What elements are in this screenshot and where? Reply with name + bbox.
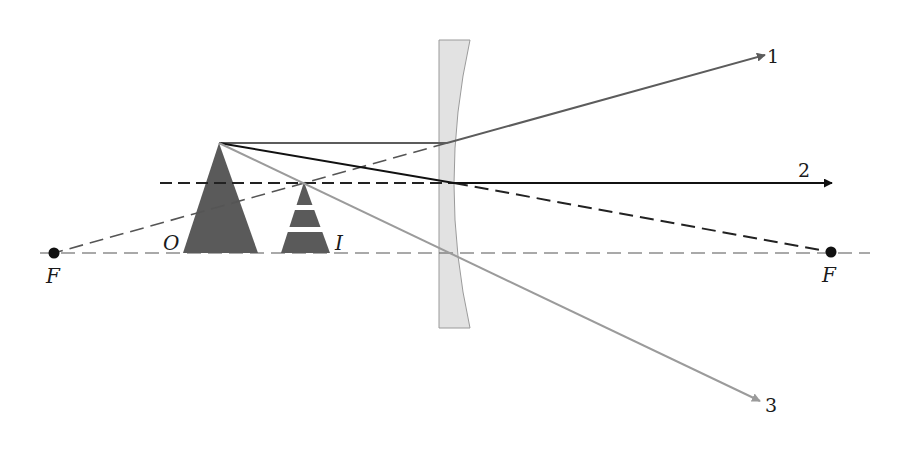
focal-point-left bbox=[49, 248, 60, 259]
object-arrow bbox=[183, 143, 258, 253]
ray2-label: 2 bbox=[798, 159, 810, 181]
focal-label-left: F bbox=[45, 264, 61, 288]
ray-2 bbox=[219, 143, 832, 183]
image-label: I bbox=[334, 231, 344, 255]
ray3-label: 3 bbox=[765, 394, 777, 416]
object-label: O bbox=[163, 231, 179, 255]
focal-point-right bbox=[826, 247, 837, 258]
focal-label-right: F bbox=[821, 263, 837, 287]
ray-3 bbox=[219, 143, 760, 401]
virtual-image bbox=[270, 182, 340, 253]
ray-diagram: F F O I 1 2 3 bbox=[0, 0, 915, 455]
ray1-label: 1 bbox=[767, 45, 779, 67]
ray2-extension-to-focus bbox=[454, 183, 831, 252]
ray-1 bbox=[219, 55, 765, 143]
